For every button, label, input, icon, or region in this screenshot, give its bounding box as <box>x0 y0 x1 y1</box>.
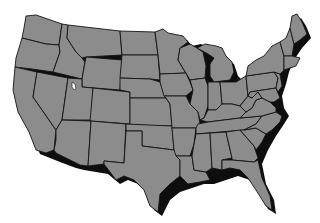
us-map <box>0 0 320 223</box>
states <box>13 14 307 212</box>
state-ny <box>246 42 284 76</box>
state-fa <box>222 160 272 210</box>
state-nd <box>120 31 158 55</box>
state-wy <box>82 57 122 90</box>
state-ks <box>130 98 172 126</box>
state-co <box>90 88 130 124</box>
state-sd <box>120 55 160 80</box>
state-nm <box>88 121 126 166</box>
state-ms <box>192 133 212 172</box>
us-map-svg <box>0 0 320 223</box>
state-ma-ct-ri <box>284 56 300 70</box>
